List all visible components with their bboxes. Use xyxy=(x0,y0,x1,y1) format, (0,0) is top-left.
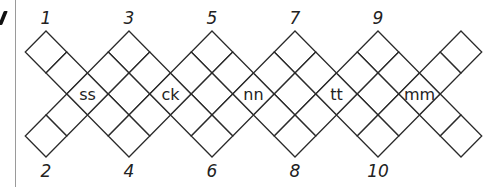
bottom-number-label: 6 xyxy=(207,161,218,181)
word-chain-worksheet: 13579246810sscknnttmm xyxy=(0,0,502,187)
bottom-number-label: 8 xyxy=(290,161,301,181)
diamond-chain-grid: 13579246810sscknnttmm xyxy=(0,0,502,187)
top-number-label: 7 xyxy=(290,8,301,28)
top-number-label: 5 xyxy=(207,8,218,28)
letter-pair-label: tt xyxy=(330,85,343,104)
top-number-label: 9 xyxy=(373,8,384,28)
bottom-number-label: 10 xyxy=(367,161,389,181)
top-number-label: 3 xyxy=(124,8,135,28)
top-number-label: 1 xyxy=(41,8,52,28)
bottom-number-label: 2 xyxy=(41,161,52,181)
letter-pair-label: mm xyxy=(404,85,435,104)
letter-pair-label: ss xyxy=(79,85,96,104)
letter-pair-label: nn xyxy=(243,85,263,104)
bottom-number-label: 4 xyxy=(124,161,135,181)
letter-pair-label: ck xyxy=(161,85,180,104)
